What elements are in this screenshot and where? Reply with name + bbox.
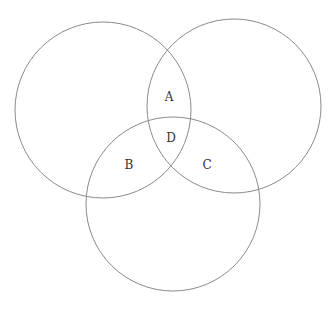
venn-diagram: A D B C bbox=[0, 0, 336, 309]
circle-right bbox=[147, 19, 321, 193]
region-label-d: D bbox=[166, 131, 176, 145]
region-label-a: A bbox=[164, 90, 174, 104]
circle-left bbox=[15, 22, 191, 198]
region-label-b: B bbox=[125, 158, 134, 172]
region-label-c: C bbox=[202, 158, 211, 172]
